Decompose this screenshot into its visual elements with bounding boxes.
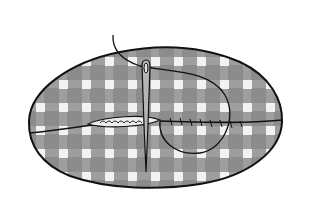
sewing-illustration: (function(){ const x0=14,y0=8,x1=302,y1=… xyxy=(0,0,316,223)
gingham-pillow xyxy=(20,40,290,195)
